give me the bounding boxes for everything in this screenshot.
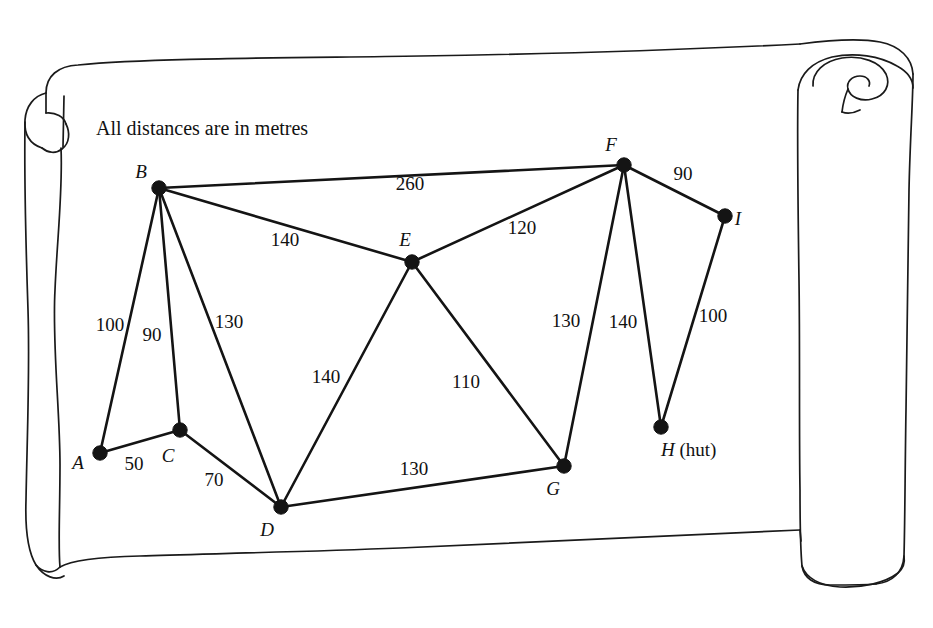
edge-weight-BD: 130: [215, 311, 244, 332]
graph-node-label-F: F: [604, 134, 617, 155]
graph-node-D[interactable]: [274, 500, 288, 514]
node-letter-E: E: [398, 229, 411, 250]
edge-weight-FI: 90: [674, 163, 693, 184]
edge-weight-EG: 110: [452, 371, 480, 392]
graph-node-I[interactable]: [718, 209, 732, 223]
edge-weight-BC: 90: [143, 324, 162, 345]
edge-weight-FH: 140: [609, 311, 638, 332]
scroll-illustration: 1005090130140260701401301201101301409010…: [0, 0, 933, 628]
edge-weight-BE: 140: [271, 229, 300, 250]
node-letter-G: G: [546, 478, 560, 499]
edge-weight-FG: 130: [552, 310, 581, 331]
edge-weight-DG: 130: [400, 458, 429, 479]
edge-weight-HI: 100: [699, 305, 728, 326]
scroll-diagram-page: 1005090130140260701401301201101301409010…: [0, 0, 933, 628]
graph-node-B[interactable]: [152, 181, 166, 195]
graph-node-H[interactable]: [654, 420, 668, 434]
graph-node-label-D: D: [259, 519, 274, 540]
node-letter-C: C: [162, 445, 175, 466]
graph-node-label-E: E: [398, 229, 411, 250]
graph-node-G[interactable]: [557, 459, 571, 473]
graph-node-F[interactable]: [617, 158, 631, 172]
edge-weight-EF: 120: [508, 217, 537, 238]
graph-node-A[interactable]: [93, 446, 107, 460]
node-suffix-H: (hut): [675, 439, 717, 461]
graph-node-E[interactable]: [405, 255, 419, 269]
node-letter-D: D: [259, 519, 274, 540]
edge-weight-CD: 70: [205, 469, 224, 490]
graph-node-C[interactable]: [173, 423, 187, 437]
graph-node-label-A: A: [70, 452, 84, 473]
graph-node-label-G: G: [546, 478, 560, 499]
scroll-right-roll: [798, 40, 913, 587]
graph-node-label-B: B: [135, 161, 147, 182]
edge-weight-AB: 100: [96, 314, 125, 335]
edge-weight-BF: 260: [396, 173, 425, 194]
edge-weight-AC: 50: [125, 453, 144, 474]
graph-node-label-C: C: [162, 445, 175, 466]
graph-node-label-H: H (hut): [660, 439, 716, 461]
caption-all-distances-metres: All distances are in metres: [96, 117, 308, 139]
edge-weight-DE: 140: [312, 366, 341, 387]
node-letter-B: B: [135, 161, 147, 182]
node-letter-H: H: [660, 439, 676, 460]
node-letter-A: A: [70, 452, 84, 473]
node-letter-F: F: [604, 134, 617, 155]
